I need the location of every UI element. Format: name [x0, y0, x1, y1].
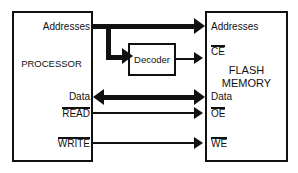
flash-title-line1: FLASH [229, 64, 264, 76]
processor-port-addresses-label: Addresses [13, 21, 90, 32]
flash-port-addresses-label: Addresses [211, 21, 258, 32]
processor-port-data-label: Data [13, 91, 90, 102]
ce-overline-text: CE [211, 45, 225, 57]
flash-port-we-label: WE [211, 137, 227, 149]
flash-port-ce-label: CE [211, 45, 225, 57]
address-bus-arrow-icon [194, 18, 205, 34]
address-branch-arrow-icon [122, 48, 133, 64]
write-to-we-line [93, 142, 196, 144]
flash-port-data-label: Data [211, 91, 232, 102]
read-overline-text: READ [62, 107, 90, 119]
processor-port-read-label: READ [13, 107, 90, 119]
processor-port-write-label: WRITE [13, 137, 90, 149]
address-branch-vertical-line [106, 24, 111, 58]
decoder-to-ce-line [176, 58, 196, 60]
ce-arrow-icon [194, 52, 203, 64]
oe-arrow-icon [194, 107, 203, 119]
write-overline-text: WRITE [58, 137, 90, 149]
oe-overline-text: OE [211, 107, 225, 119]
block-diagram-canvas: Addresses PROCESSOR Data READ WRITE Deco… [0, 0, 298, 173]
we-overline-text: WE [211, 137, 227, 149]
data-bus-arrow-right-icon [194, 89, 205, 105]
flash-title-line2: MEMORY [222, 77, 271, 89]
decoder-block-title: Decoder [129, 54, 175, 65]
processor-block-title: PROCESSOR [13, 58, 90, 69]
read-to-oe-line [93, 112, 196, 114]
flash-memory-block-title: FLASH MEMORY [206, 64, 287, 90]
flash-port-oe-label: OE [211, 107, 225, 119]
we-arrow-icon [194, 137, 203, 149]
data-bus-arrow-left-icon [93, 89, 104, 105]
data-bus-line [101, 95, 196, 100]
